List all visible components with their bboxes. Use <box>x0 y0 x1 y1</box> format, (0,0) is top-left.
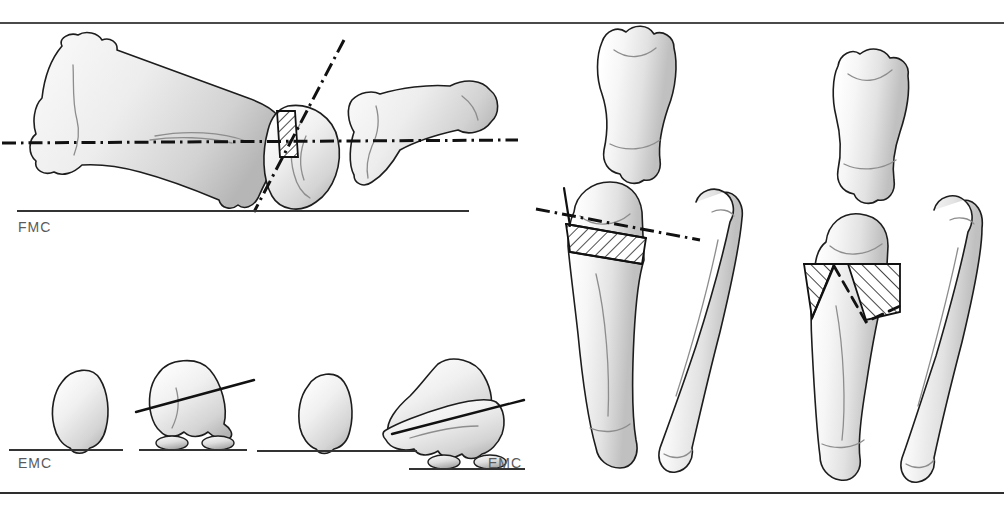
sesamoid-b-left <box>156 436 188 450</box>
proximal-phalanx-lateral <box>348 81 497 185</box>
frontal-preop-panel <box>540 16 780 486</box>
condyle-series-caption: EMC <box>18 455 52 471</box>
bottom-divider-rule <box>0 492 1004 494</box>
frontal-preop-caption: EMC <box>488 455 522 471</box>
sesamoid-b-right <box>202 436 234 450</box>
proximal-phalanx-frontal-post <box>833 49 908 203</box>
proximal-phalanx-frontal-pre <box>598 26 677 183</box>
condyle-view-upright-a <box>10 370 122 453</box>
condyle-view-upright-c <box>258 374 372 453</box>
osteotomy-figure: FMC <box>0 0 1004 513</box>
frontal-preop-svg <box>540 16 780 486</box>
lateral-view-panel <box>0 24 520 224</box>
sesamoid-d-left <box>428 455 460 469</box>
metacarpal-frontal-pre <box>568 182 644 468</box>
condyle-shape-a <box>52 370 108 453</box>
condyle-series-panel <box>0 352 540 482</box>
lateral-view-caption: FMC <box>18 219 51 235</box>
splint-post-detail-1 <box>950 218 974 224</box>
long-metacarpal-bone <box>30 33 292 209</box>
splint-bone-frontal-pre <box>659 189 742 472</box>
condyle-view-tilted-b <box>136 361 254 450</box>
lateral-view-svg <box>0 24 520 224</box>
condyle-shape-c <box>299 374 352 453</box>
condyle-view-corrected-d <box>372 359 524 469</box>
splint-bone-frontal-post <box>901 196 982 482</box>
condyle-upper-cut-line <box>564 188 570 226</box>
condyle-shape-b <box>149 361 231 440</box>
condyle-series-svg <box>0 352 540 482</box>
frontal-postop-panel <box>778 16 1004 486</box>
splint-detail-1 <box>712 210 734 216</box>
frontal-postop-svg <box>778 16 1004 486</box>
